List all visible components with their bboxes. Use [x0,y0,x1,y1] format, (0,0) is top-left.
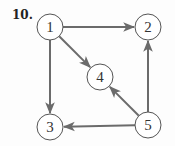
node-label: 3 [46,119,54,135]
node-4: 4 [87,64,113,90]
directed-graph: 12345 [0,0,175,146]
node-5: 5 [135,112,161,138]
node-label: 2 [144,19,152,35]
node-label: 5 [144,117,152,133]
node-3: 3 [37,114,63,140]
node-label: 1 [46,19,54,35]
nodes-layer: 12345 [37,14,161,140]
edge-1-to-4 [59,36,90,67]
node-2: 2 [135,14,161,40]
node-label: 4 [96,69,104,85]
edge-5-to-3 [64,125,135,126]
edge-5-to-4 [110,87,139,116]
diagram-stage: 10. 12345 [0,0,175,146]
node-1: 1 [37,14,63,40]
